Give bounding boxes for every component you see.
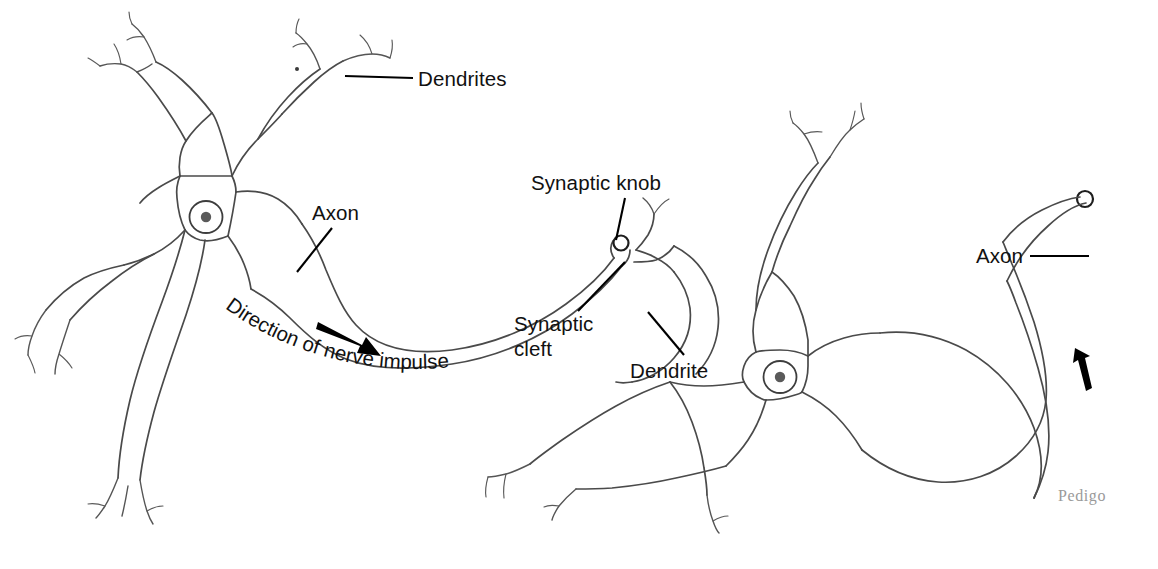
right-dendrite-upper	[756, 103, 864, 310]
label-dendrite-singular: Dendrite	[630, 359, 708, 382]
right-dendrite-lower-left	[486, 382, 728, 533]
left-soma	[124, 113, 302, 289]
label-synaptic-cleft-line2: cleft	[514, 337, 552, 360]
left-dendrite-upper-right	[258, 19, 392, 139]
leader-synaptic-knob	[616, 198, 625, 240]
left-neuron	[15, 12, 630, 524]
label-axon-left: Axon	[312, 201, 359, 224]
right-axon-direction-arrow	[1073, 348, 1092, 391]
label-synaptic-knob: Synaptic knob	[531, 171, 661, 194]
left-dendrite-mid-left	[15, 254, 154, 374]
leader-dendrites	[345, 76, 413, 78]
left-dendrite-lower	[88, 230, 205, 524]
left-nucleus	[190, 201, 223, 233]
label-axon-right: Axon	[976, 244, 1023, 267]
right-nucleus	[764, 361, 797, 393]
artist-signature: Pedigo	[1058, 487, 1106, 505]
synaptic-knob	[611, 236, 630, 267]
leader-synaptic-cleft	[578, 262, 625, 311]
left-dendrite-upper-left	[88, 12, 212, 141]
leader-axon-left	[297, 228, 332, 272]
neuron-synapse-diagram: Direction of nerve impulse Dendrites Axo…	[0, 0, 1158, 569]
label-synaptic-cleft-line1: Synaptic	[514, 312, 593, 335]
leader-dendrite-singular	[648, 312, 684, 355]
label-dendrites: Dendrites	[418, 67, 507, 90]
postsynaptic-dendrite	[616, 198, 719, 383]
diagram-canvas: Direction of nerve impulse Dendrites Axo…	[0, 0, 1158, 569]
right-axon	[862, 191, 1093, 498]
leader-lines	[297, 76, 1089, 355]
